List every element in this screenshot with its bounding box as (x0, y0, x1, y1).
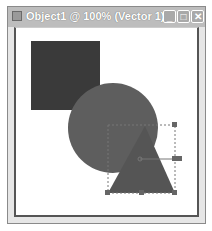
resize-handle-bottom-right (172, 190, 177, 195)
resize-handle-bottom-left (105, 190, 110, 195)
resize-handle-bottom-middle (139, 190, 144, 195)
canvas-artwork (0, 0, 212, 231)
rotation-handle (177, 156, 182, 161)
resize-handle-top-right (172, 122, 177, 127)
resize-handle-middle-right (172, 156, 177, 161)
